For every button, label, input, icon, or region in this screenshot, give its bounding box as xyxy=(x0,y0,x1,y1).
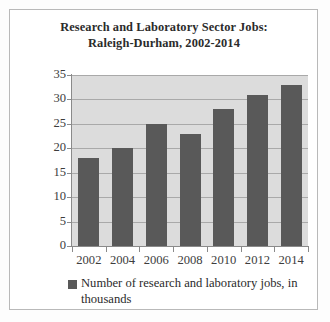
y-axis-tick-label: 5 xyxy=(40,215,66,228)
chart-title-line-2: Raleigh-Durham, 2002-2014 xyxy=(24,36,304,52)
bar xyxy=(281,85,302,246)
x-axis-tick xyxy=(241,247,242,252)
bar xyxy=(247,95,268,246)
x-axis-tick xyxy=(139,247,140,252)
x-axis-tick-label: 2014 xyxy=(271,253,311,267)
y-axis-tick xyxy=(67,222,72,223)
y-axis-tick xyxy=(67,75,72,76)
y-axis-tick-label: 25 xyxy=(40,117,66,130)
chart-legend: Number of research and laboratory jobs, … xyxy=(68,276,308,307)
gridline xyxy=(72,75,308,76)
bar xyxy=(146,124,167,246)
x-axis-tick xyxy=(106,247,107,252)
chart-figure: Research and Laboratory Sector Jobs: Ral… xyxy=(0,0,330,322)
bar xyxy=(213,109,234,246)
y-axis-tick xyxy=(67,173,72,174)
x-axis-tick xyxy=(308,247,309,252)
legend-label: Number of research and laboratory jobs, … xyxy=(81,276,308,307)
chart-title-line-1: Research and Laboratory Sector Jobs: xyxy=(24,20,304,36)
y-axis-tick xyxy=(67,197,72,198)
chart-title: Research and Laboratory Sector Jobs: Ral… xyxy=(24,20,304,51)
y-axis-tick-label: 10 xyxy=(40,190,66,203)
y-axis-tick-label: 20 xyxy=(40,141,66,154)
x-axis-tick xyxy=(274,247,275,252)
x-axis-tick xyxy=(173,247,174,252)
y-axis-tick-label: 0 xyxy=(40,239,66,252)
y-axis-tick-label: 35 xyxy=(40,68,66,81)
x-axis-tick xyxy=(207,247,208,252)
gridline xyxy=(72,99,308,100)
plot-area xyxy=(72,75,308,246)
y-axis-tick-label: 30 xyxy=(40,92,66,105)
legend-swatch-icon xyxy=(68,280,77,289)
chart-frame: Research and Laboratory Sector Jobs: Ral… xyxy=(9,9,318,310)
y-axis-tick xyxy=(67,124,72,125)
y-axis-tick xyxy=(67,99,72,100)
bar xyxy=(112,148,133,246)
y-axis-tick xyxy=(67,148,72,149)
gridline xyxy=(72,124,308,125)
x-axis-tick xyxy=(72,247,73,252)
y-axis-tick-labels: 05101520253035 xyxy=(36,10,66,322)
bar xyxy=(78,158,99,246)
y-axis-tick-label: 15 xyxy=(40,166,66,179)
bar xyxy=(180,134,201,246)
